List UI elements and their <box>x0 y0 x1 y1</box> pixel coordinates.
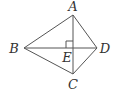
label-a: A <box>67 0 77 14</box>
label-b: B <box>8 41 19 56</box>
quadrilateral-diagram: A B C D E <box>0 0 118 92</box>
segment-da <box>73 15 97 48</box>
right-angle-mark <box>66 41 73 48</box>
segment-cd <box>73 48 97 74</box>
label-c: C <box>68 77 78 92</box>
label-d: D <box>99 41 111 56</box>
label-e: E <box>61 50 72 65</box>
